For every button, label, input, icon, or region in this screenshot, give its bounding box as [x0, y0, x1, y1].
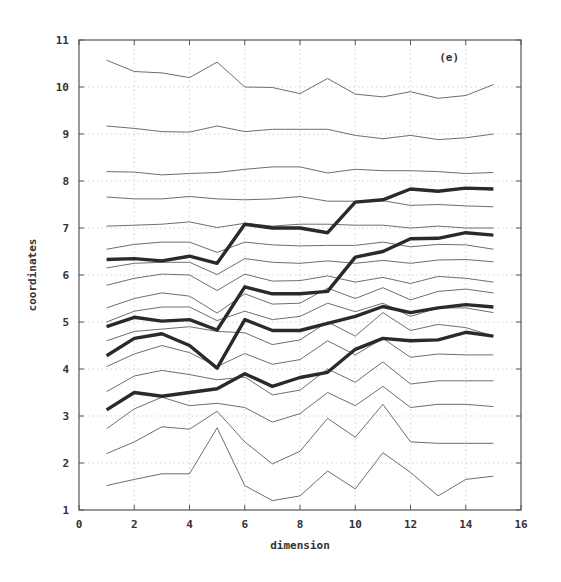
x-tick-label: 8 [297, 518, 304, 531]
x-axis-title: dimension [270, 539, 330, 552]
x-tick-label: 6 [241, 518, 248, 531]
x-tick-label: 12 [404, 518, 417, 531]
x-tick-labels: 0246810121416 [76, 518, 528, 531]
y-tick-label: 6 [62, 269, 69, 282]
y-tick-label: 9 [62, 128, 69, 141]
y-tick-label: 11 [56, 34, 70, 47]
x-tick-label: 14 [459, 518, 473, 531]
x-tick-label: 4 [186, 518, 193, 531]
series-line-thin-2 [107, 126, 494, 140]
y-tick-label: 2 [62, 457, 69, 470]
y-tick-label: 3 [62, 410, 69, 423]
y-tick-label: 7 [62, 222, 69, 235]
y-tick-label: 8 [62, 175, 69, 188]
x-tick-label: 0 [76, 518, 83, 531]
panel-label: (e) [439, 51, 459, 64]
y-tick-label: 1 [62, 504, 69, 517]
y-tick-labels: 1234567891011 [56, 34, 70, 517]
x-tick-label: 2 [131, 518, 138, 531]
y-tick-label: 5 [62, 316, 69, 329]
series-line-thin-1 [107, 60, 494, 98]
grid-lines [79, 40, 521, 510]
y-axis-title: coordinates [26, 239, 39, 312]
y-tick-label: 4 [62, 363, 69, 376]
series-line-thick-3 [107, 305, 494, 369]
x-tick-label: 10 [349, 518, 362, 531]
line-chart: 0246810121416 1234567891011 dimension co… [0, 0, 561, 582]
series-line-thin-14 [107, 386, 494, 428]
x-tick-label: 16 [514, 518, 528, 531]
y-tick-label: 10 [56, 81, 69, 94]
